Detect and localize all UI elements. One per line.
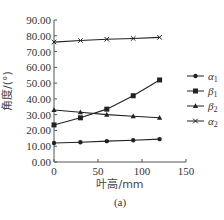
marker-diamond-icon: [157, 137, 161, 141]
legend-label: β1: [207, 85, 217, 99]
marker-diamond-icon: [105, 139, 109, 143]
marker-diamond-icon: [131, 138, 135, 142]
legend-item-β1: β1: [187, 85, 217, 99]
series-α2: [52, 35, 162, 44]
x-axis-label: 叶高/mm: [96, 177, 143, 191]
y-tick-label: 30.00: [26, 109, 51, 121]
marker-triangle-icon: [51, 107, 56, 112]
y-tick-label: 80.00: [26, 30, 51, 42]
x-tick-label: 100: [134, 165, 151, 177]
x-tick-label: 150: [178, 165, 195, 177]
y-tick-label: 20.00: [26, 124, 51, 136]
marker-square-icon: [52, 122, 57, 127]
marker-square-icon: [104, 107, 109, 112]
y-tick-label: 50.00: [26, 77, 51, 89]
series-α1: [52, 137, 162, 145]
legend-item-β2: β2: [187, 100, 217, 114]
marker-square-icon: [193, 89, 198, 94]
x-tick-label: 50: [93, 165, 105, 177]
legend-item-α1: α1: [187, 70, 218, 84]
marker-square-icon: [131, 93, 136, 98]
y-tick-label: 40.00: [26, 93, 51, 105]
y-tick-label: 10.00: [26, 140, 51, 152]
y-tick-label: 90.00: [26, 14, 51, 26]
line-chart: 0.0010.0020.0030.0040.0050.0060.0070.008…: [0, 0, 224, 220]
marker-diamond-icon: [193, 74, 197, 78]
legend-label: β2: [207, 100, 217, 114]
y-axis-label: 角度/(°): [0, 71, 14, 111]
marker-square-icon: [78, 115, 83, 120]
legend-label: α2: [208, 115, 218, 129]
series-β1: [52, 77, 163, 127]
y-tick-label: 60.00: [26, 61, 51, 73]
series-line: [54, 80, 160, 125]
marker-square-icon: [157, 77, 162, 82]
legend: α1β1β2α2: [187, 70, 218, 129]
axes: 0.0010.0020.0030.0040.0050.0060.0070.008…: [26, 14, 195, 177]
legend-item-α2: α2: [187, 115, 218, 129]
legend-label: α1: [208, 70, 218, 84]
y-tick-label: 0.00: [32, 156, 52, 168]
marker-diamond-icon: [78, 140, 82, 144]
y-tick-label: 70.00: [26, 46, 51, 58]
x-tick-label: 0: [51, 165, 57, 177]
series-layer: [51, 35, 162, 145]
marker-diamond-icon: [52, 141, 56, 145]
chart-caption: (a): [114, 196, 127, 209]
